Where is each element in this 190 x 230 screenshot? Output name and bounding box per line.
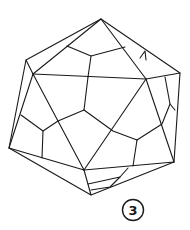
figure-label: 3: [123, 200, 144, 221]
icosahedron-edges: [9, 19, 180, 195]
polyhedron-drawing: 3: [0, 0, 190, 230]
figure-label-text: 3: [128, 203, 137, 218]
